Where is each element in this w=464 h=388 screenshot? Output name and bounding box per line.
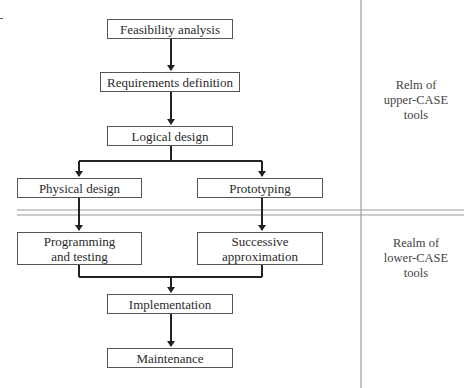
node-label-line2: and testing — [51, 249, 108, 264]
node-label: Requirements definition — [107, 75, 233, 90]
region-label-line2: lower-CASE — [368, 251, 464, 266]
node-label: Prototyping — [229, 181, 290, 196]
node-label: Feasibility analysis — [120, 22, 220, 37]
node-logical-design: Logical design — [107, 126, 233, 146]
region-label-lower-case: Realm of lower-CASE tools — [368, 236, 464, 281]
region-label-line3: tools — [368, 108, 464, 123]
node-label: Implementation — [129, 297, 211, 312]
node-label-line1: Successive — [231, 234, 288, 249]
node-maintenance: Maintenance — [107, 348, 233, 368]
node-label: Maintenance — [136, 351, 203, 366]
node-label: Logical design — [132, 129, 209, 144]
region-label-line1: Realm of — [368, 236, 464, 251]
node-label-line1: Programming — [44, 234, 116, 249]
node-requirements-definition: Requirements definition — [100, 72, 240, 92]
region-label-line2: upper-CASE — [368, 93, 464, 108]
region-label-line3: tools — [368, 266, 464, 281]
node-programming-and-testing: Programming and testing — [17, 232, 142, 265]
node-label: Physical design — [39, 181, 120, 196]
region-label-line1: Relm of — [368, 78, 464, 93]
node-implementation: Implementation — [107, 294, 233, 314]
region-label-upper-case: Relm of upper-CASE tools — [368, 78, 464, 123]
node-physical-design: Physical design — [17, 178, 142, 198]
node-successive-approximation: Successive approximation — [197, 232, 323, 265]
node-label-line2: approximation — [222, 249, 298, 264]
node-prototyping: Prototyping — [197, 178, 323, 198]
node-feasibility-analysis: Feasibility analysis — [107, 19, 233, 39]
